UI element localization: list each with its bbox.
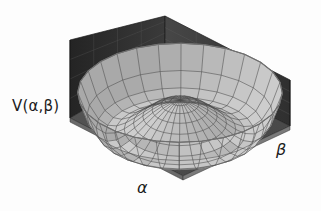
surface-plot-figure: V(α,β) α β	[0, 0, 321, 211]
beta-axis-label: β	[276, 140, 286, 159]
v-axis-label: V(α,β)	[12, 97, 59, 115]
mexican-hat-surface	[78, 43, 283, 169]
alpha-axis-label: α	[137, 178, 148, 197]
